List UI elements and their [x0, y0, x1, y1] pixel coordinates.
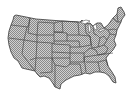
us-map: [0, 0, 134, 95]
us-outline: [8, 7, 125, 89]
